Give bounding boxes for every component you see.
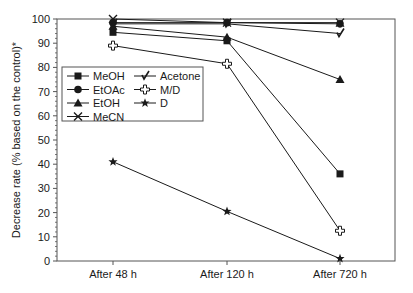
series-d xyxy=(108,157,344,262)
open-cross-marker-icon xyxy=(109,41,118,50)
circle-marker-icon xyxy=(336,20,344,28)
square-marker-icon xyxy=(110,29,117,36)
y-tick-label: 70 xyxy=(38,86,50,98)
legend-label: M/D xyxy=(160,84,180,96)
legend-label: EtOAc xyxy=(93,84,125,96)
star-marker-icon xyxy=(108,157,117,166)
y-tick-label: 90 xyxy=(38,37,50,49)
y-tick-label: 60 xyxy=(38,110,50,122)
legend-label: EtOH xyxy=(93,97,120,109)
x-tick-label: After 720 h xyxy=(313,268,367,280)
y-tick-label: 50 xyxy=(38,134,50,146)
open-cross-marker-icon xyxy=(223,59,232,68)
y-tick-label: 30 xyxy=(38,182,50,194)
plot-frame xyxy=(57,19,395,261)
y-tick-label: 0 xyxy=(44,255,50,267)
line-chart: 0102030405060708090100After 48 hAfter 12… xyxy=(0,0,413,293)
axes: 0102030405060708090100After 48 hAfter 12… xyxy=(32,13,395,280)
y-tick-label: 80 xyxy=(38,61,50,73)
star-marker-icon xyxy=(222,207,231,216)
y-tick-label: 100 xyxy=(32,13,50,25)
legend-label: Acetone xyxy=(160,70,200,82)
legend-label: D xyxy=(160,97,168,109)
y-tick-label: 10 xyxy=(38,231,50,243)
check-marker-icon xyxy=(337,29,344,37)
square-marker-icon xyxy=(75,73,82,80)
square-marker-icon xyxy=(337,170,344,177)
legend: MeOHEtOAcEtOHMeCNAcetoneM/DD xyxy=(62,67,203,123)
legend-label: MeOH xyxy=(93,70,125,82)
circle-marker-icon xyxy=(74,86,82,94)
series-layer xyxy=(108,15,344,262)
legend-label: MeCN xyxy=(93,111,124,123)
triangle-marker-icon xyxy=(336,75,345,83)
y-tick-label: 40 xyxy=(38,158,50,170)
y-axis-title: Decrease rate (% based on the control)* xyxy=(10,41,22,238)
open-cross-marker-icon xyxy=(336,226,345,235)
y-tick-label: 20 xyxy=(38,207,50,219)
x-tick-label: After 120 h xyxy=(200,268,254,280)
x-tick-label: After 48 h xyxy=(89,268,137,280)
